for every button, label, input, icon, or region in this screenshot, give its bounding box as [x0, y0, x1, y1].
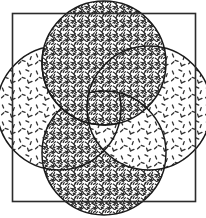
figure-root: Four overlapping circles rosette Line dr…	[0, 0, 206, 218]
rosette-diagram: Four overlapping circles rosette Line dr…	[0, 0, 206, 218]
